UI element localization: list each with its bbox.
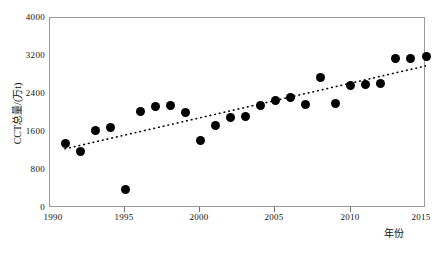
chart-figure: 4000 3200 2400 1600 800 0 1990 1995 2000… — [0, 0, 444, 256]
trendline — [50, 18, 426, 208]
data-point — [136, 107, 145, 116]
data-point — [76, 147, 85, 156]
data-point — [181, 108, 190, 117]
data-point — [422, 52, 431, 61]
data-point — [106, 123, 115, 132]
data-point — [91, 126, 100, 135]
data-point — [196, 136, 205, 145]
data-point — [376, 79, 385, 88]
data-point — [166, 101, 175, 110]
y-tick-label-3200: 3200 — [26, 51, 45, 60]
data-point — [286, 93, 295, 102]
y-tick-label-0: 0 — [40, 203, 45, 212]
data-point — [271, 96, 280, 105]
x-tick-label-2015: 2015 — [411, 212, 430, 222]
y-axis-title: CCT总量/(万t) — [12, 59, 23, 169]
data-point — [226, 113, 235, 122]
data-point — [346, 81, 355, 90]
data-point — [241, 112, 250, 121]
data-point — [211, 121, 220, 130]
y-tick-label-2400: 2400 — [26, 89, 45, 98]
x-tick-label-2000: 2000 — [189, 212, 208, 222]
data-point — [61, 139, 70, 148]
x-tick-label-1990: 1990 — [43, 212, 62, 222]
data-point — [301, 100, 310, 109]
data-point — [316, 73, 325, 82]
data-point — [121, 185, 130, 194]
plot-area — [49, 17, 425, 207]
x-tick-label-2005: 2005 — [264, 212, 283, 222]
y-tick-label-4000: 4000 — [26, 13, 45, 22]
x-axis-title: 年份 — [384, 228, 404, 239]
data-point — [361, 80, 370, 89]
data-point — [256, 101, 265, 110]
y-tick-label-800: 800 — [31, 165, 45, 174]
y-tick-label-1600: 1600 — [26, 127, 45, 136]
data-point — [151, 102, 160, 111]
x-tick-label-2010: 2010 — [340, 212, 359, 222]
y-axis-tick-labels: 4000 3200 2400 1600 800 0 — [0, 0, 45, 256]
x-tick-label-1995: 1995 — [114, 212, 133, 222]
data-point — [406, 54, 415, 63]
data-point — [331, 99, 340, 108]
data-point — [391, 54, 400, 63]
